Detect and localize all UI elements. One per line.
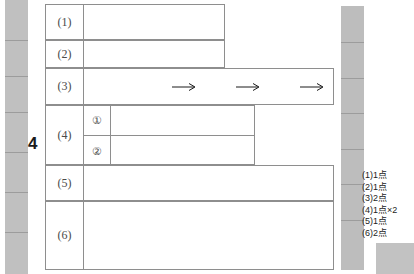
- table-row: (5): [45, 165, 334, 201]
- row-label-6: (6): [46, 202, 84, 269]
- row-label-2: (2): [46, 41, 84, 67]
- scan-edge-corner: [376, 243, 414, 274]
- score-key-item: (4)1点×2: [362, 205, 414, 217]
- table-row: (3): [45, 68, 334, 105]
- score-key-item: (6)2点: [362, 228, 414, 240]
- score-key-list: (1)1点 (2)1点 (3)2点 (4)1点×2 (5)1点 (6)2点: [362, 170, 414, 240]
- right-arrow-icon: [300, 82, 326, 91]
- table-row: (6): [45, 201, 334, 270]
- row-label-1: (1): [46, 5, 84, 39]
- subrow-group-4: ① ②: [84, 106, 254, 164]
- scan-edge-right: [341, 6, 364, 270]
- answer-sheet-table: (1) (2) (3) (4) ①: [45, 4, 335, 270]
- row-label-3: (3): [46, 69, 84, 104]
- right-arrow-icon: [172, 82, 198, 91]
- subrow: ②: [84, 136, 254, 166]
- scan-edge-left: [5, 0, 28, 274]
- answer-field-3[interactable]: [84, 69, 333, 104]
- answer-field-4-1[interactable]: [111, 106, 254, 135]
- question-number: 4: [28, 134, 37, 154]
- subrow: ①: [84, 106, 254, 136]
- score-key-item: (3)2点: [362, 193, 414, 205]
- subrow-number-2: ②: [84, 136, 111, 166]
- score-key-item: (5)1点: [362, 216, 414, 228]
- answer-field-1[interactable]: [84, 5, 224, 39]
- subrow-number-1: ①: [84, 106, 111, 135]
- score-key-item: (1)1点: [362, 170, 414, 182]
- table-row: (1): [45, 4, 225, 40]
- table-row: (2): [45, 40, 225, 68]
- right-arrow-icon: [236, 82, 262, 91]
- table-row: (4) ① ②: [45, 105, 255, 165]
- answer-field-5[interactable]: [84, 166, 333, 200]
- row-label-5: (5): [46, 166, 84, 200]
- answer-field-4-2[interactable]: [111, 136, 254, 166]
- score-key-item: (2)1点: [362, 182, 414, 194]
- row-label-4: (4): [46, 106, 84, 164]
- answer-field-2[interactable]: [84, 41, 224, 67]
- answer-field-6[interactable]: [84, 202, 333, 269]
